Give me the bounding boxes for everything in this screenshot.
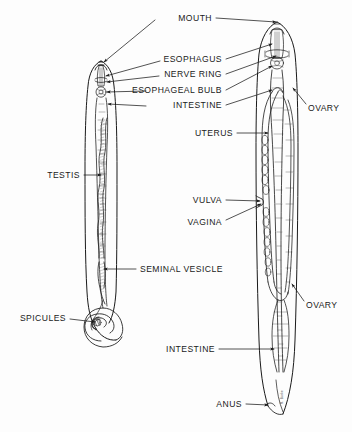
label-esophageal-bulb: ESOPHAGEAL BULB xyxy=(132,86,222,95)
label-nerve-ring: NERVE RING xyxy=(164,70,222,79)
male-specimen xyxy=(84,61,123,347)
label-testis: TESTIS xyxy=(47,171,80,180)
label-intestine-upper: INTESTINE xyxy=(173,101,222,110)
label-intestine-lower: INTESTINE xyxy=(166,345,215,354)
label-vagina: VAGINA xyxy=(187,218,222,227)
nematode-anatomy-figure: MOUTHESOPHAGUSNERVE RINGESOPHAGEAL BULBI… xyxy=(0,0,352,432)
label-anus: ANUS xyxy=(216,400,242,409)
label-spicules: SPICULES xyxy=(20,314,66,323)
label-esophagus: ESOPHAGUS xyxy=(164,55,223,64)
label-seminal-vesicle: SEMINAL VESICLE xyxy=(140,265,223,274)
female-specimen xyxy=(256,22,298,415)
label-ovary-lower: OVARY xyxy=(306,301,338,310)
label-mouth: MOUTH xyxy=(178,14,212,23)
label-vulva: VULVA xyxy=(193,196,222,205)
label-uterus: UTERUS xyxy=(195,129,233,138)
diagram-artwork xyxy=(0,0,352,432)
label-ovary-upper: OVARY xyxy=(308,104,340,113)
artist-signature: R. Burke xyxy=(280,390,284,404)
